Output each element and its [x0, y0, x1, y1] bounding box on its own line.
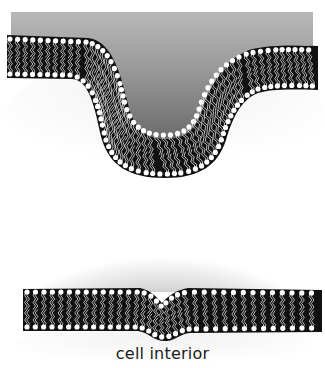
diagram-svg: [0, 0, 325, 368]
membrane-diagram: cell interior: [0, 0, 325, 368]
cell-interior-label: cell interior: [0, 344, 325, 363]
